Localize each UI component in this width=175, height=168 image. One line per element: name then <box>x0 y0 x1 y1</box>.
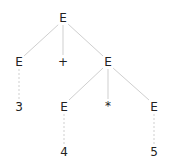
node-5: 5 <box>149 145 159 159</box>
edge-root-left <box>24 24 59 56</box>
node-plus: + <box>57 55 69 69</box>
node-root-e: E <box>58 11 68 25</box>
node-4: 4 <box>59 145 69 159</box>
edge-right-lowright <box>113 68 149 100</box>
tree-edges <box>0 0 175 168</box>
node-star: * <box>104 99 112 113</box>
node-lowleft-e: E <box>59 100 69 114</box>
edge-root-right <box>68 24 103 56</box>
node-left-e: E <box>14 55 24 69</box>
node-3: 3 <box>14 100 24 114</box>
node-right-e: E <box>103 55 113 69</box>
edge-right-lowleft <box>69 68 103 100</box>
node-lowright-e: E <box>149 100 159 114</box>
